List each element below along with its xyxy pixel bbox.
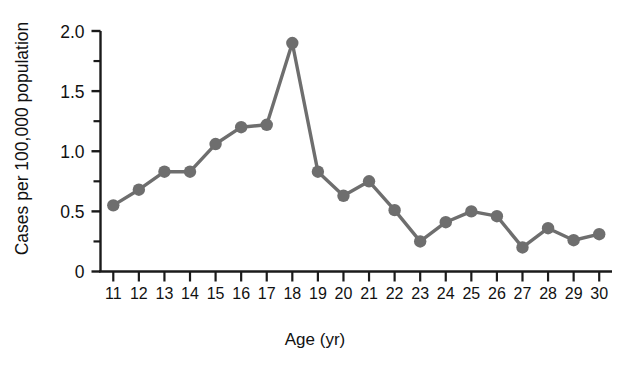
data-point <box>286 37 298 49</box>
data-point <box>261 119 273 131</box>
x-tick-label: 29 <box>565 285 583 302</box>
x-tick-label: 16 <box>232 285 250 302</box>
data-point <box>465 205 477 217</box>
x-tick-label: 28 <box>539 285 557 302</box>
x-axis-tick-labels: 1112131415161718192021222324252627282930 <box>105 285 608 302</box>
x-axis-ticks <box>113 272 599 282</box>
x-axis-label: Age (yr) <box>0 330 630 350</box>
x-tick-label: 27 <box>514 285 532 302</box>
y-tick-label: 0 <box>75 262 85 282</box>
x-tick-label: 15 <box>207 285 225 302</box>
y-tick-label: 2.0 <box>60 22 85 42</box>
y-axis-tick-labels: 2.01.51.00.50 <box>60 22 85 283</box>
x-tick-label: 20 <box>335 285 353 302</box>
data-point <box>491 210 503 222</box>
x-tick-label: 18 <box>283 285 301 302</box>
y-axis-major-ticks <box>92 31 101 272</box>
x-tick-label: 26 <box>488 285 506 302</box>
data-point <box>388 204 400 216</box>
x-tick-label: 11 <box>105 285 122 302</box>
x-tick-label: 23 <box>411 285 429 302</box>
y-tick-label: 1.5 <box>60 82 84 102</box>
chart-figure: Cases per 100,000 population 2.01.51.00.… <box>0 0 630 368</box>
x-tick-label: 12 <box>130 285 148 302</box>
data-point <box>363 175 375 187</box>
x-tick-label: 17 <box>258 285 276 302</box>
data-series-line <box>113 43 599 247</box>
data-point <box>567 234 579 246</box>
data-point-markers <box>107 37 605 254</box>
data-point <box>337 190 349 202</box>
x-tick-label: 21 <box>360 285 378 302</box>
data-point <box>209 138 221 150</box>
data-point <box>312 165 324 177</box>
data-point <box>414 235 426 247</box>
data-point <box>440 216 452 228</box>
data-point <box>158 165 170 177</box>
x-tick-label: 19 <box>309 285 327 302</box>
data-point <box>133 184 145 196</box>
x-tick-label: 24 <box>437 285 455 302</box>
data-point <box>593 228 605 240</box>
data-point <box>516 241 528 253</box>
line-chart-plot: 2.01.51.00.50 11121314151617181920212223… <box>0 0 630 368</box>
y-tick-label: 0.5 <box>60 202 84 222</box>
x-tick-label: 13 <box>156 285 174 302</box>
data-point <box>107 199 119 211</box>
x-tick-label: 30 <box>590 285 608 302</box>
data-point <box>235 121 247 133</box>
data-point <box>542 222 554 234</box>
x-tick-label: 14 <box>181 285 199 302</box>
data-point <box>184 165 196 177</box>
x-tick-label: 22 <box>386 285 404 302</box>
x-tick-label: 25 <box>462 285 480 302</box>
y-tick-label: 1.0 <box>60 142 85 162</box>
